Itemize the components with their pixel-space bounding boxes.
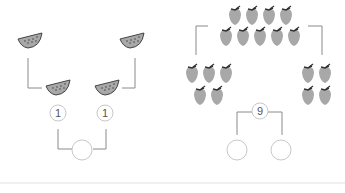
strawberry-icon — [220, 64, 232, 83]
part-answer-circle[interactable] — [227, 140, 247, 160]
bracket-line — [237, 112, 252, 135]
strawberry-icon — [302, 64, 314, 83]
part-value: 1 — [55, 107, 61, 119]
bracket-line — [196, 26, 208, 55]
watermelon-icon — [120, 33, 144, 48]
strawberry-icon — [203, 64, 215, 83]
bracket-line — [268, 112, 282, 135]
strawberry-icon — [263, 6, 275, 25]
strawberry-icon — [246, 6, 258, 25]
part-value: 1 — [102, 107, 108, 119]
strawberry-icon — [237, 27, 249, 46]
strawberry-group-left — [186, 64, 232, 105]
left-problem: 1 1 — [18, 33, 144, 160]
bracket-line — [28, 58, 42, 88]
strawberry-icon — [288, 27, 300, 46]
strawberry-icon — [302, 86, 314, 105]
bracket-line — [308, 26, 322, 55]
strawberry-icon — [194, 86, 206, 105]
right-problem: 9 — [186, 6, 331, 160]
strawberry-icon — [271, 27, 283, 46]
bracket-line — [93, 129, 106, 149]
strawberry-icon — [254, 27, 266, 46]
bracket-line — [58, 129, 72, 149]
watermelon-icon — [18, 33, 42, 48]
strawberry-group-top — [220, 6, 300, 46]
strawberry-icon — [211, 86, 223, 105]
strawberry-icon — [319, 64, 331, 83]
watermelon-icon — [95, 80, 119, 95]
strawberry-icon — [220, 27, 232, 46]
watermelon-icon — [46, 80, 70, 95]
strawberry-icon — [229, 6, 241, 25]
divider — [0, 182, 345, 184]
whole-value: 9 — [257, 105, 263, 117]
whole-answer-circle[interactable] — [72, 140, 92, 160]
number-bond-worksheet: 1 1 — [0, 0, 345, 193]
bracket-line — [122, 58, 135, 88]
strawberry-icon — [280, 6, 292, 25]
strawberry-group-right — [302, 64, 331, 105]
strawberry-icon — [186, 64, 198, 83]
part-answer-circle[interactable] — [271, 140, 291, 160]
strawberry-icon — [319, 86, 331, 105]
